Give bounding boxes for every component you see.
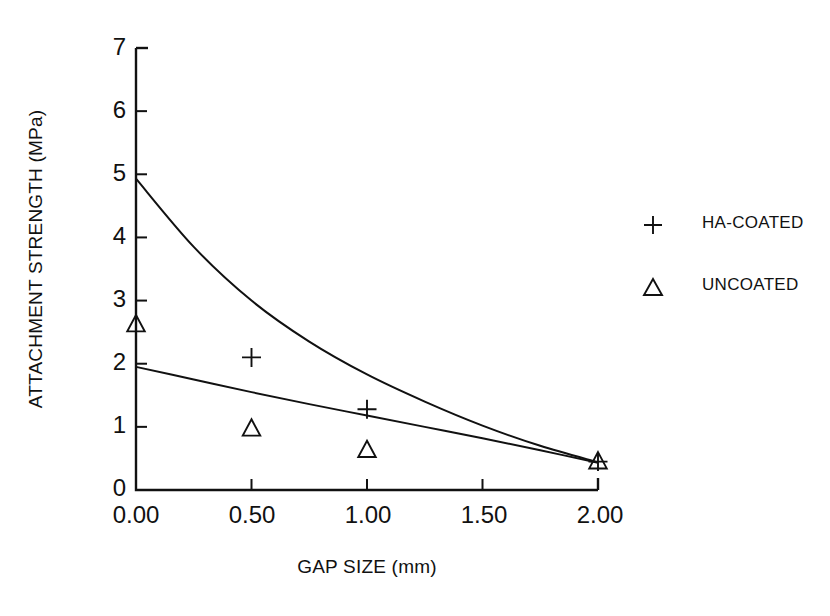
y-tick-marks <box>136 48 147 427</box>
chart-legend: HA-COATED UNCOATED <box>640 212 825 336</box>
x-tick-marks <box>252 479 483 490</box>
plus-marker-icon <box>640 212 666 238</box>
marker-plus-0 <box>242 348 261 367</box>
marker-triangle-2 <box>358 441 375 457</box>
data-markers-uncoated <box>127 315 606 468</box>
triangle-marker-icon <box>640 274 666 300</box>
chart-figure: ATTACHMENT STRENGTH (MPa) GAP SIZE (mm) … <box>0 0 830 616</box>
marker-triangle-1 <box>243 419 260 435</box>
legend-item-uncoated: UNCOATED <box>640 274 825 336</box>
axis-spines <box>136 48 598 490</box>
legend-label-uncoated: UNCOATED <box>702 275 799 295</box>
fit-curve-ha-coated <box>136 179 598 463</box>
legend-label-ha-coated: HA-COATED <box>702 213 804 233</box>
legend-item-ha-coated: HA-COATED <box>640 212 825 274</box>
